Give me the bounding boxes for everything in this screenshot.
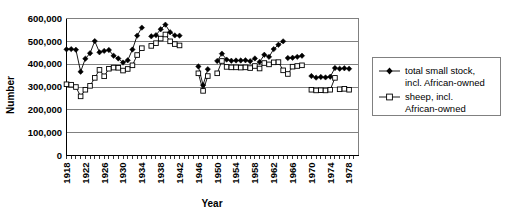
x-tick-label: 1978	[343, 163, 354, 184]
data-point-marker	[130, 63, 135, 68]
data-point-marker	[215, 58, 220, 63]
data-point-marker	[149, 34, 154, 39]
data-point-marker	[78, 69, 83, 74]
x-axis: 1918192219261930193419381942194619501954…	[61, 156, 355, 184]
data-point-marker	[74, 85, 79, 90]
data-point-marker	[83, 87, 88, 92]
y-tick-label: 400,000	[28, 58, 62, 69]
data-point-marker	[107, 66, 112, 71]
data-point-marker	[158, 36, 163, 41]
data-point-marker	[201, 89, 206, 94]
data-point-marker	[323, 75, 328, 80]
data-point-marker	[125, 58, 130, 63]
data-point-marker	[243, 58, 248, 63]
data-point-marker	[318, 74, 323, 79]
x-tick-label: 1966	[287, 163, 298, 184]
x-tick-label: 1930	[117, 163, 128, 184]
data-point-marker	[337, 87, 342, 92]
data-point-marker	[163, 32, 168, 37]
open-square-icon	[387, 94, 393, 100]
x-tick-label: 1954	[230, 162, 241, 184]
data-point-marker	[134, 33, 139, 38]
data-point-marker	[290, 64, 295, 69]
y-tick-label: 200,000	[28, 104, 62, 115]
data-point-marker	[215, 71, 220, 76]
data-point-marker	[121, 68, 126, 73]
data-point-marker	[177, 43, 182, 48]
line-chart: Number 600,000 500,000 400,000 300,000 2…	[0, 0, 506, 220]
data-point-marker	[248, 66, 253, 71]
data-point-marker	[234, 65, 239, 70]
legend-label-line2: incl. African-owned	[405, 77, 485, 88]
data-point-marker	[253, 64, 258, 69]
data-point-marker	[314, 88, 319, 93]
data-point-marker	[267, 62, 272, 67]
data-point-marker	[346, 66, 351, 71]
data-point-marker	[328, 87, 333, 92]
data-point-marker	[300, 63, 305, 68]
data-point-marker	[135, 53, 140, 58]
legend-label-line1: sheep, incl.	[405, 91, 453, 102]
data-point-marker	[69, 46, 74, 51]
x-tick-label: 1926	[99, 163, 110, 184]
data-point-marker	[111, 65, 116, 70]
data-point-marker	[220, 59, 225, 64]
data-point-marker	[173, 42, 178, 47]
data-point-marker	[64, 82, 69, 87]
data-point-marker	[69, 82, 74, 87]
series-sheep	[64, 32, 351, 98]
data-point-marker	[125, 67, 130, 72]
data-point-marker	[295, 54, 300, 59]
data-point-marker	[196, 71, 201, 76]
data-point-marker	[295, 64, 300, 69]
data-point-marker	[102, 74, 107, 79]
y-tick-label: 0	[57, 150, 62, 161]
x-tick-label: 1962	[268, 163, 279, 184]
data-point-marker	[88, 84, 93, 89]
data-point-marker	[168, 39, 173, 44]
x-tick-label: 1974	[325, 162, 336, 184]
data-point-marker	[139, 25, 144, 30]
chart-legend: total small stock, incl. African-owned s…	[373, 58, 501, 116]
data-point-marker	[290, 55, 295, 60]
x-axis-title: Year	[201, 198, 222, 209]
legend-label-line1: total small stock,	[405, 65, 475, 76]
data-point-marker	[299, 53, 304, 58]
data-point-marker	[101, 48, 106, 53]
y-tick-label: 500,000	[28, 36, 62, 47]
data-point-marker	[337, 66, 342, 71]
data-point-marker	[229, 65, 234, 70]
data-point-marker	[342, 87, 347, 92]
data-point-marker	[177, 33, 182, 38]
data-point-marker	[332, 65, 337, 70]
data-point-marker	[149, 44, 154, 49]
plot-area	[64, 19, 359, 156]
data-point-marker	[309, 73, 314, 78]
data-point-marker	[154, 41, 159, 46]
legend-label-line2: African-owned	[405, 103, 466, 114]
y-tick-label: 300,000	[28, 81, 62, 92]
data-point-marker	[276, 60, 281, 65]
data-point-marker	[347, 87, 352, 92]
x-tick-label: 1942	[174, 163, 185, 184]
y-tick-label: 100,000	[28, 127, 62, 138]
data-point-marker	[130, 47, 135, 52]
data-point-marker	[73, 47, 78, 52]
data-point-marker	[97, 50, 102, 55]
data-point-marker	[309, 87, 314, 92]
x-tick-label: 1950	[212, 163, 223, 184]
data-point-marker	[140, 46, 145, 51]
data-point-marker	[271, 60, 276, 65]
x-tick-label: 1934	[136, 162, 147, 184]
y-axis-title: Number	[5, 76, 16, 114]
data-point-marker	[92, 38, 97, 43]
data-point-marker	[252, 56, 257, 61]
data-point-marker	[205, 66, 210, 71]
data-point-marker	[238, 65, 243, 70]
data-point-marker	[167, 30, 172, 35]
data-point-marker	[97, 68, 102, 73]
data-point-marker	[319, 88, 324, 93]
x-tick-label: 1970	[306, 163, 317, 184]
data-point-marker	[313, 75, 318, 80]
chart-container: Number 600,000 500,000 400,000 300,000 2…	[0, 0, 506, 220]
